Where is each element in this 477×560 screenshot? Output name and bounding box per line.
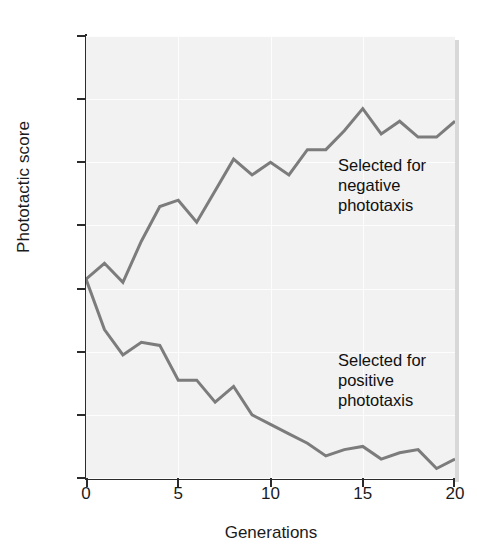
phototactic-score-chart: Phototactic score Generations 1357911131…	[0, 0, 477, 560]
y-tick	[77, 161, 86, 163]
y-tick	[77, 288, 86, 290]
x-tick-label: 10	[249, 484, 293, 504]
y-tick	[77, 224, 86, 226]
x-tick-label: 5	[156, 484, 200, 504]
annotation-positive-phototaxis: Selected for positive phototaxis	[338, 350, 426, 410]
y-tick	[77, 477, 86, 479]
x-tick-label: 0	[64, 484, 108, 504]
annotation-negative-phototaxis: Selected for negative phototaxis	[338, 155, 426, 215]
x-tick-label: 15	[341, 484, 385, 504]
y-axis-title: Phototactic score	[14, 77, 34, 297]
plot-area	[86, 36, 455, 478]
y-tick	[77, 35, 86, 37]
x-tick-label: 20	[433, 484, 477, 504]
plot-shadow	[455, 40, 459, 482]
y-tick	[77, 351, 86, 353]
y-tick	[77, 414, 86, 416]
x-axis-title: Generations	[86, 523, 456, 543]
series-lines	[86, 36, 455, 478]
y-tick	[77, 98, 86, 100]
